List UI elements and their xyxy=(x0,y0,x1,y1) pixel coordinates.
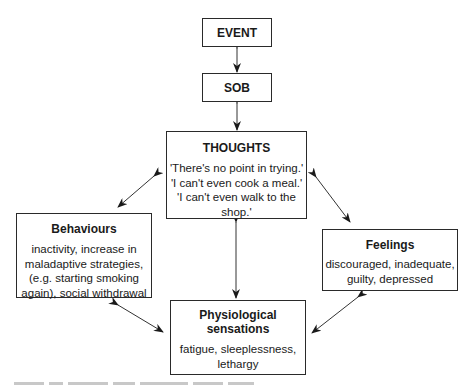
physiological-box: Physiological sensations fatigue, sleepl… xyxy=(170,300,306,375)
arrow-thoughts-feelings xyxy=(316,177,350,222)
behaviours-line: again), social withdrawal xyxy=(17,286,151,301)
thoughts-line: 'There's no point in trying.' xyxy=(167,161,306,176)
thoughts-line: 'I can't even walk to the xyxy=(167,190,306,205)
figure-caption-cropped xyxy=(14,382,314,387)
physiological-line: lethargy xyxy=(171,357,305,372)
arrow-behaviours-physiological xyxy=(118,305,163,332)
arrow-thoughts-behaviours xyxy=(118,176,154,207)
event-box: EVENT xyxy=(202,18,272,47)
physiological-title: Physiological xyxy=(171,308,305,322)
behaviours-line: (e.g. starting smoking xyxy=(17,271,151,286)
feelings-title: Feelings xyxy=(323,238,457,252)
physiological-title: sensations xyxy=(171,322,305,336)
behaviours-box: Behaviours inactivity, increase in malad… xyxy=(16,213,152,298)
behaviours-title: Behaviours xyxy=(17,222,151,236)
behaviours-line: maladaptive strategies, xyxy=(17,257,151,272)
event-title: EVENT xyxy=(203,26,271,40)
thoughts-title: THOUGHTS xyxy=(167,141,306,155)
behaviours-line: inactivity, increase in xyxy=(17,242,151,257)
feelings-line: guilty, depressed xyxy=(323,272,457,287)
feelings-box: Feelings discouraged, inadequate, guilty… xyxy=(322,229,458,291)
sob-box: SOB xyxy=(202,73,272,102)
arrow-feelings-physiological xyxy=(312,297,358,333)
thoughts-line: 'I can't even cook a meal.' xyxy=(167,176,306,191)
feelings-line: discouraged, inadequate, xyxy=(323,257,457,272)
thoughts-box: THOUGHTS 'There's no point in trying.' '… xyxy=(166,131,307,219)
physiological-line: fatigue, sleeplessness, xyxy=(171,342,305,357)
thoughts-line: shop.' xyxy=(167,205,306,220)
sob-title: SOB xyxy=(203,81,271,95)
